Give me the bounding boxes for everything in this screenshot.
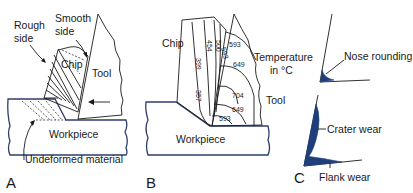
label-tool: Tool: [266, 94, 285, 106]
label-tool: Tool: [92, 67, 111, 79]
label-rough-side-2: side: [14, 32, 33, 44]
nose-rounding-pointer: [326, 60, 344, 74]
label-crater-wear: Crater wear: [327, 123, 382, 135]
panel-b-isotherms: [192, 20, 256, 126]
isotherm-593-b: 593: [229, 41, 241, 48]
panel-letter-b: B: [146, 174, 156, 191]
flank-wear: [304, 156, 342, 166]
label-smooth-side-2: side: [55, 25, 74, 37]
label-chip: Chip: [61, 58, 83, 70]
isotherm-649-a: 649: [233, 61, 245, 68]
isotherm-357: 357: [195, 90, 202, 102]
label-temperature-2: in °C: [270, 64, 293, 76]
label-nose-rounding: Nose rounding: [344, 50, 412, 62]
panel-b-workpiece: [146, 102, 270, 155]
isotherm-454: 454: [206, 40, 213, 52]
metal-cutting-figure: Rough side Smooth side Chip Tool Workpie…: [0, 0, 413, 193]
isotherm-593-c: 593: [219, 115, 231, 122]
label-rough-side-1: Rough: [14, 19, 45, 31]
isotherm-593-a: 593: [220, 46, 230, 59]
label-smooth-side-1: Smooth: [55, 12, 91, 24]
label-workpiece: Workpiece: [49, 128, 99, 140]
label-flank-wear: Flank wear: [319, 171, 371, 183]
panel-b-isotherm-labels: 399 357 454 500 593 593 649 704 649 593: [195, 40, 245, 122]
panel-c: Nose rounding Crater wear Flank wear C: [294, 14, 412, 186]
arrow-left-icon: [88, 99, 110, 105]
isotherm-704: 704: [232, 92, 244, 99]
label-chip: Chip: [162, 37, 184, 49]
nose-rounding-wear: [320, 70, 334, 82]
isotherm-649-b: 649: [232, 106, 244, 113]
label-temperature-1: Temperature: [254, 51, 313, 63]
arrow-head-icon: [83, 52, 87, 58]
panel-letter-c: C: [294, 169, 305, 186]
label-workpiece: Workpiece: [176, 133, 226, 145]
panel-b: 399 357 454 500 593 593 649 704 649 593 …: [146, 14, 313, 191]
panel-a: Rough side Smooth side Chip Tool Workpie…: [6, 12, 127, 191]
label-undeformed-material: Undeformed material: [25, 153, 123, 165]
isotherm-399: 399: [195, 58, 202, 70]
panel-letter-a: A: [6, 174, 16, 191]
